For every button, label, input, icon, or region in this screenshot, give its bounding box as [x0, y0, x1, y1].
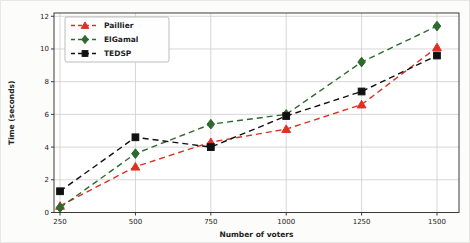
x-tick-label: 1500	[428, 218, 446, 226]
y-tick-label: 4	[45, 144, 50, 152]
square-marker	[132, 134, 139, 141]
x-axis-label: Number of voters	[219, 230, 294, 239]
square-marker	[358, 88, 365, 95]
y-axis-label: Time (seconds)	[7, 81, 16, 145]
y-tick-label: 2	[45, 176, 49, 184]
x-tick-label: 1250	[353, 218, 371, 226]
x-tick-label: 750	[204, 218, 217, 226]
square-marker	[82, 51, 88, 57]
y-tick-label: 0	[45, 209, 49, 217]
x-tick-label: 500	[129, 218, 142, 226]
y-tick-label: 8	[45, 78, 49, 86]
y-tick-label: 6	[45, 111, 50, 119]
chart-canvas: 024681012250500750100012501500Number of …	[1, 1, 470, 243]
x-tick-label: 250	[53, 218, 66, 226]
square-marker	[57, 188, 64, 195]
square-marker	[283, 113, 290, 120]
line-chart-figure: 024681012250500750100012501500Number of …	[0, 0, 470, 243]
y-tick-label: 10	[40, 45, 49, 53]
legend-label-paillier: Paillier	[104, 21, 134, 30]
square-marker	[434, 52, 441, 59]
square-marker	[207, 144, 214, 151]
y-tick-label: 12	[40, 13, 49, 21]
legend-label-elgamal: ElGamal	[104, 35, 138, 44]
legend-label-tedsp: TEDSP	[104, 49, 132, 58]
x-tick-label: 1000	[277, 218, 295, 226]
